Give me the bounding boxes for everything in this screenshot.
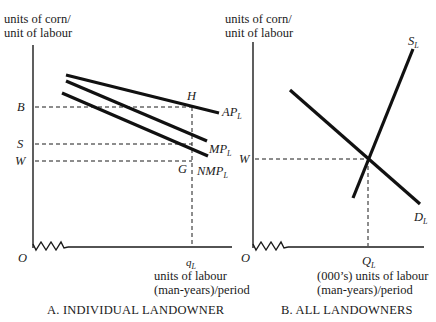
panel-a-y-axis-label-1: units of corn/: [4, 12, 71, 26]
tick-b: B: [17, 100, 25, 114]
panel-b-guides: [255, 159, 368, 246]
panel-b-y-axis-label-1: units of corn/: [225, 12, 292, 26]
panel-b-axes: [253, 42, 424, 250]
supply-label: SL: [408, 34, 419, 53]
demand-curve: [290, 90, 420, 204]
panel-b-x-axis-label-1: (000’s) units of labour: [317, 269, 428, 283]
panel-a-x-axis-label-2: (man-years)/period: [154, 283, 250, 297]
point-g: G: [178, 162, 187, 176]
tick-s: S: [17, 137, 23, 151]
panel-b-caption: B. ALL LANDOWNERS: [281, 303, 413, 318]
point-h: H: [187, 89, 196, 103]
panel-a-axis-break-zigzag: [33, 242, 68, 250]
nmp-label: NMPL: [197, 164, 228, 183]
panel-b-axis-break-zigzag: [253, 242, 288, 250]
panel-b-origin: O: [241, 251, 250, 265]
panel-b-y-axis-label-2: unit of labour: [225, 26, 293, 40]
supply-curve: [353, 49, 413, 198]
panel-a-origin: O: [18, 251, 27, 265]
panel-b-x-axis-label-2: (man-years)/period: [317, 283, 413, 297]
panel-b-curves: [290, 49, 420, 204]
mp-label: MPL: [209, 142, 232, 161]
panel-a-y-axis-label-2: unit of labour: [4, 26, 72, 40]
ap-label: APL: [222, 105, 242, 124]
tick-w-market: W: [239, 152, 249, 166]
panel-a-axes: [33, 45, 232, 250]
tick-w: W: [15, 154, 25, 168]
panel-a-guides: [35, 107, 192, 246]
demand-label: DL: [414, 210, 427, 229]
panel-a-x-axis-label-1: units of labour: [154, 269, 227, 283]
mp-curve: [66, 81, 207, 141]
panel-a-caption: A. INDIVIDUAL LANDOWNER: [47, 303, 224, 318]
